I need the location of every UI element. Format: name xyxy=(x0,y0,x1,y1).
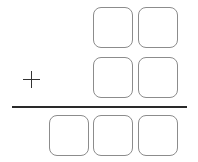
addend2-tens-box[interactable] xyxy=(93,57,133,98)
sum-line xyxy=(12,106,187,108)
addend2-ones-box[interactable] xyxy=(138,57,178,98)
sum-tens-box[interactable] xyxy=(93,115,133,156)
plus-icon xyxy=(23,71,40,88)
addend1-tens-box[interactable] xyxy=(93,7,133,48)
sum-ones-box[interactable] xyxy=(138,115,178,156)
addend1-ones-box[interactable] xyxy=(138,7,178,48)
sum-hundreds-box[interactable] xyxy=(49,115,89,156)
